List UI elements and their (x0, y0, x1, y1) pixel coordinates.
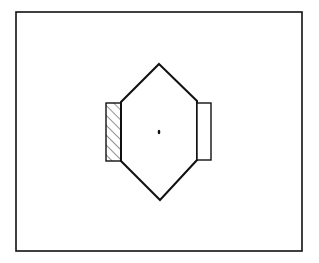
right-plain-block (197, 103, 211, 160)
center-dot (158, 130, 161, 135)
diagram-canvas (0, 0, 319, 263)
left-hatched-block (106, 103, 121, 161)
